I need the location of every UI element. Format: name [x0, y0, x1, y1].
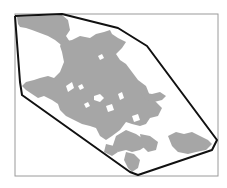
map-figure	[0, 0, 227, 188]
